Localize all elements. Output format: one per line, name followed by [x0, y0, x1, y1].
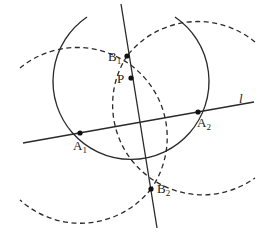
dashed-arc-a2-upper — [127, 22, 255, 56]
dashed-arc-a1-upper — [20, 47, 167, 189]
point-p — [128, 75, 133, 80]
point-b2 — [148, 186, 153, 191]
label-a1: A1 — [73, 139, 87, 155]
label-b2: B2 — [157, 182, 170, 198]
point-b1 — [124, 53, 129, 58]
label-a2: A2 — [197, 116, 211, 132]
construction-diagram: B1 P A1 A2 B2 l — [0, 0, 272, 236]
point-a1 — [77, 130, 82, 135]
perpendicular-line — [121, 4, 157, 228]
diagram-canvas — [0, 0, 272, 236]
label-line-l: l — [239, 92, 243, 105]
point-a2 — [195, 109, 200, 114]
label-p: P — [117, 72, 124, 85]
label-b1: B1 — [108, 50, 121, 66]
dashed-arc-a1-lower — [20, 189, 151, 223]
dashed-arc-a2-lower — [113, 56, 255, 195]
